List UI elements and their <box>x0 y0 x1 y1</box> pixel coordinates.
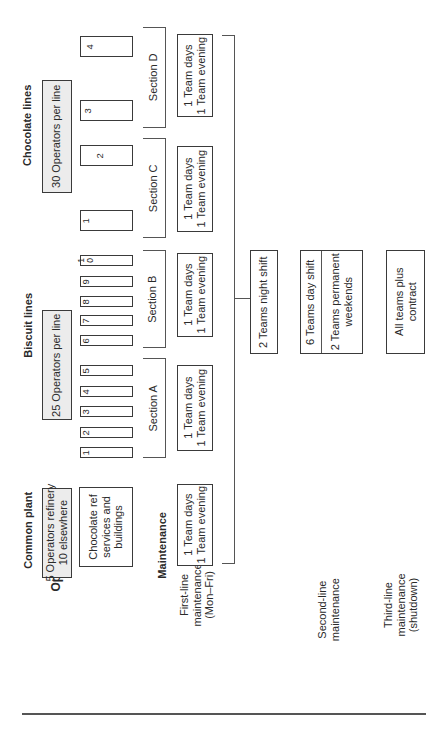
chocolate-line-3: 3 <box>80 100 133 121</box>
section-d-teams-box: 1 Team days1 Team evening <box>177 34 213 117</box>
biscuit-line-5: 5 <box>80 365 133 376</box>
biscuit-line-4: 4 <box>80 386 133 397</box>
common-plant-operators-box: 5 Operators refinery10 elsewhere <box>42 488 72 578</box>
biscuit-line-1: 1 <box>80 447 133 458</box>
biscuit-line-2: 2 <box>80 427 133 438</box>
section-b-teams-box: 1 Team days1 Team evening <box>177 253 213 337</box>
chocolate-operators-box: 30 Operators per line <box>42 80 72 193</box>
section-d-label: Section D <box>142 29 164 126</box>
main-bracket-connector <box>234 298 251 299</box>
second-line-maintenance-label: Second-linemaintenance <box>312 560 344 660</box>
weekends-label: 2 Teams permanentweekends <box>322 251 362 353</box>
night-shift-box: 2 Teams night shift <box>250 250 278 354</box>
chocolate-line-1: 1 <box>80 210 133 231</box>
section-c-label: Section C <box>142 140 164 236</box>
section-b-bracket-spine <box>165 250 166 348</box>
section-d-bracket-spine <box>165 27 166 128</box>
biscuit-line-10: 1 0 <box>80 255 133 266</box>
biscuit-line-6: 6 <box>80 335 133 346</box>
third-line-maintenance-label: Third-linemaintenance(shutdown) <box>378 555 422 655</box>
main-bracket-spine <box>234 35 235 564</box>
section-a-bracket-spine <box>165 358 166 458</box>
main-bracket-bottom <box>222 563 235 564</box>
common-plant-title: Common plant <box>16 480 40 580</box>
section-c-bracket-spine <box>165 138 166 238</box>
common-plant-area-box: Chocolate refservices andbuildings <box>79 487 133 567</box>
maintenance-row-label: Maintenance <box>150 495 174 595</box>
section-c-teams-box: 1 Team days1 Team evening <box>177 146 213 232</box>
day-and-weekend-box: 6 Teams day shift 2 Teams permanentweeke… <box>300 250 363 354</box>
biscuit-operators-box: 25 Operators per line <box>42 310 72 420</box>
biscuit-line-9: 9 <box>80 276 133 287</box>
chocolate-lines-title: Chocolate lines <box>16 75 40 175</box>
common-plant-first-line-teams-box: 1 Team days1 Team evening <box>177 484 213 566</box>
section-a-label: Section A <box>142 360 164 456</box>
chocolate-line-2: 2 <box>80 145 133 166</box>
all-teams-contract-box: All teams pluscontract <box>386 250 425 354</box>
biscuit-lines-title: Biscuit lines <box>16 280 40 370</box>
chocolate-line-4: 4 <box>80 36 133 57</box>
section-a-teams-box: 1 Team days1 Team evening <box>177 365 213 451</box>
biscuit-line-8: 8 <box>80 296 133 307</box>
biscuit-line-7: 7 <box>80 315 133 326</box>
day-shift-label: 6 Teams day shift <box>301 251 321 353</box>
biscuit-line-3: 3 <box>80 406 133 417</box>
bottom-rule <box>22 713 426 715</box>
section-b-label: Section B <box>142 252 164 346</box>
